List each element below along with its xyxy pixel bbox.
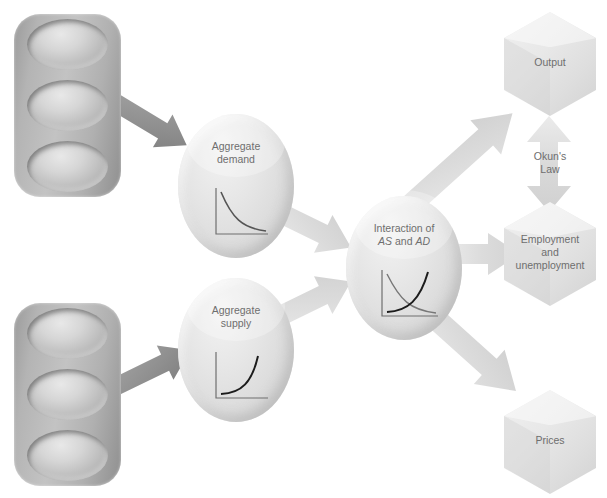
interaction-label-ad: AD [415,235,430,247]
lamp-2 [27,80,108,131]
node-aggregate-demand[interactable]: Aggregate demand [178,114,294,258]
lamp-5 [27,369,108,420]
lamp-4 [27,308,108,359]
aggregate-supply-mini-chart [210,348,272,406]
lamp-1 [27,19,108,70]
interaction-label: Interaction of AS and AD [346,222,462,248]
okun-line1: Okun's [534,150,566,162]
ad-label-line1: Aggregate [212,140,260,152]
ad-label-line2: demand [217,153,255,165]
okuns-law-label: Okun's Law [509,150,591,176]
aggregate-demand-mini-chart [210,184,272,242]
as-label-line2: supply [221,317,251,329]
source-panel-top [14,14,121,197]
employment-line2: and [541,246,559,258]
node-interaction-as-ad[interactable]: Interaction of AS and AD [346,196,462,340]
employment-line3: unemployment [516,259,585,271]
diagram-canvas: Aggregate demand Aggregate supply Intera… [0,0,607,498]
aggregate-demand-label: Aggregate demand [178,140,294,166]
interaction-mini-chart [376,266,442,324]
interaction-label-and: and [392,235,415,247]
aggregate-supply-label: Aggregate supply [178,304,294,330]
node-aggregate-supply[interactable]: Aggregate supply [178,278,294,422]
lamp-3 [27,141,108,192]
output-label: Output [504,56,596,69]
okun-line2: Law [540,163,559,175]
interaction-label-line1: Interaction of [374,222,435,234]
prices-label: Prices [504,434,596,447]
lamp-6 [27,430,108,481]
employment-label: Employment and unemployment [504,233,596,272]
employment-line1: Employment [521,233,579,245]
source-panel-bottom [14,303,121,486]
interaction-label-as: AS [378,235,392,247]
as-label-line1: Aggregate [212,304,260,316]
